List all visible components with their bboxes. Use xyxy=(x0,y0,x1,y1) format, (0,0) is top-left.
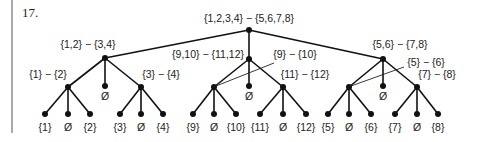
internal-node xyxy=(414,84,420,90)
tree-edge xyxy=(45,87,68,114)
leaf-node xyxy=(414,111,420,117)
leaf-node xyxy=(190,111,196,117)
internal-node xyxy=(346,84,352,90)
leaf-node xyxy=(303,111,309,117)
pointer-line xyxy=(216,63,274,86)
problem-number: 17. xyxy=(22,5,38,20)
leaf-label: Ø xyxy=(413,121,421,133)
leaf-node xyxy=(392,111,398,117)
leaf-label: {9} xyxy=(187,121,200,133)
tree-edge xyxy=(214,59,249,87)
partition-label: {3} − {4} xyxy=(142,68,180,80)
leaf-label: {1} xyxy=(39,121,52,133)
partition-label: {5,6} − {7,8} xyxy=(372,38,428,50)
leaf-label: Ø xyxy=(345,121,353,133)
pointer-line xyxy=(351,67,404,86)
leaf-node xyxy=(280,111,286,117)
partition-label: {1,2} − {3,4} xyxy=(60,38,116,50)
leaf-label: {3} xyxy=(114,121,127,133)
leaf-node xyxy=(87,111,93,117)
leaf-label: {7} xyxy=(389,121,402,133)
partition-label: {11} − {12} xyxy=(281,68,330,80)
tree-edge xyxy=(328,87,349,114)
tree-edge xyxy=(193,87,214,114)
tree-edge xyxy=(417,87,438,114)
partition-label: {7} − {8} xyxy=(418,68,456,80)
leaf-label: Ø xyxy=(64,121,72,133)
empty-set-node xyxy=(246,83,252,89)
tree-edge xyxy=(120,87,141,114)
internal-node xyxy=(246,56,252,62)
empty-set-node xyxy=(380,83,386,89)
leaf-label: Ø xyxy=(210,121,218,133)
leaf-node xyxy=(435,111,441,117)
tree-edge xyxy=(214,87,236,114)
empty-set-label: Ø xyxy=(379,90,387,102)
root-label: {1,2,3,4} − {5,6,7,8} xyxy=(204,12,295,24)
tree-edge xyxy=(395,87,417,114)
internal-node xyxy=(138,84,144,90)
internal-node xyxy=(102,55,108,61)
leaf-node xyxy=(138,111,144,117)
leaf-node xyxy=(160,111,166,117)
root-node xyxy=(246,27,252,33)
internal-node xyxy=(280,84,286,90)
leaf-label: {10} xyxy=(227,121,246,133)
leaf-label: {11} xyxy=(251,121,269,133)
tree-edge xyxy=(249,59,283,87)
leaf-label: Ø xyxy=(137,121,145,133)
set-partition-tree-diagram: 17. {1,2,3,4} − {5,6,7,8}{1,2} − {3,4}{9… xyxy=(0,0,485,142)
tree-edge xyxy=(260,87,283,114)
leaf-label: {4} xyxy=(157,121,170,133)
leaf-node xyxy=(42,111,48,117)
leaf-label: Ø xyxy=(279,121,287,133)
leaf-label: {6} xyxy=(365,121,378,133)
tree-edge xyxy=(283,87,306,114)
leaf-node xyxy=(368,111,374,117)
tree-edge xyxy=(349,59,383,87)
empty-set-label: Ø xyxy=(245,90,253,102)
internal-node xyxy=(211,84,217,90)
tree-edge xyxy=(349,87,371,114)
empty-set-label: Ø xyxy=(101,90,109,102)
internal-node xyxy=(380,56,386,62)
partition-label: {5} − {6} xyxy=(407,56,445,68)
leaf-node xyxy=(65,111,71,117)
leaf-label: {12} xyxy=(297,121,316,133)
internal-node xyxy=(65,84,71,90)
leaf-node xyxy=(233,111,239,117)
partition-label: {9} − {10} xyxy=(273,48,317,60)
tree-edge xyxy=(141,87,163,114)
leaf-node xyxy=(211,111,217,117)
partition-label: {1} − {2} xyxy=(29,68,67,80)
leaf-node xyxy=(325,111,331,117)
leaf-label: {2} xyxy=(84,121,97,133)
partition-label: {9,10} − {11,12} xyxy=(172,48,244,60)
tree-edge xyxy=(68,87,90,114)
leaf-node xyxy=(257,111,263,117)
tree-edge xyxy=(105,58,141,87)
empty-set-node xyxy=(102,83,108,89)
leaf-label: {5} xyxy=(322,121,335,133)
leaf-node xyxy=(346,111,352,117)
leaf-label: {8} xyxy=(432,121,445,133)
leaf-node xyxy=(117,111,123,117)
tree-edge xyxy=(68,58,105,87)
